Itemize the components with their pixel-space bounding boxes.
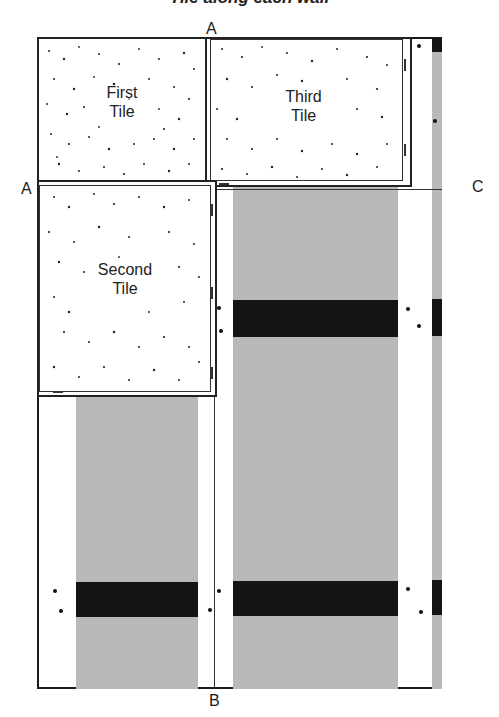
dot: [417, 324, 421, 328]
first-tile-label: First Tile: [39, 83, 205, 121]
dot: [53, 589, 57, 593]
edge-mark: [219, 183, 229, 185]
third-tile: Third Tile: [205, 37, 412, 187]
dot: [419, 610, 423, 614]
black-band-top-right: [432, 39, 442, 52]
third-tile-label: Third Tile: [207, 87, 400, 125]
black-band-upper-right: [432, 299, 442, 336]
edge-mark: [211, 204, 213, 216]
diagram-title: Tile along each wall: [0, 0, 499, 8]
label-c-right: C: [472, 178, 484, 196]
second-tile: Second Tile: [37, 180, 217, 397]
dot: [59, 609, 63, 613]
black-band-upper-mid: [233, 300, 398, 337]
dot: [417, 44, 421, 48]
dot: [208, 608, 212, 612]
black-band-lower-mid: [233, 581, 398, 616]
edge-mark: [211, 367, 213, 379]
black-band-lower-right: [432, 580, 442, 615]
edge-mark: [53, 391, 63, 393]
dot: [219, 329, 223, 333]
dot: [217, 589, 221, 593]
edge-mark: [404, 144, 406, 156]
dot: [433, 119, 437, 123]
edge-mark: [211, 287, 213, 299]
second-tile-label: Second Tile: [39, 260, 211, 298]
dot: [406, 307, 410, 311]
dot: [217, 306, 221, 310]
dot: [406, 587, 410, 591]
first-tile: First Tile: [37, 37, 207, 182]
label-a-left: A: [21, 180, 32, 198]
black-band-lower-left: [76, 582, 198, 617]
edge-mark: [404, 59, 406, 71]
label-b-bottom: B: [209, 692, 220, 710]
label-a-top: A: [206, 20, 217, 38]
